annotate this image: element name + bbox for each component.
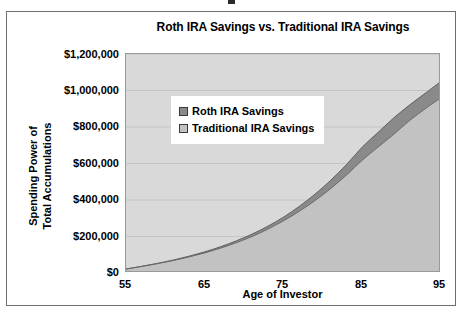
y-tick-label-200000: $200,000 [35, 230, 119, 242]
plot-area: Roth IRA Savings Traditional IRA Savings [125, 53, 440, 272]
scan-artifact-speck [228, 0, 235, 4]
y-tick-label-1000000: $1,000,000 [35, 84, 119, 96]
x-axis-title: Age of Investor [125, 288, 440, 300]
legend-item-traditional-ira-savings: Traditional IRA Savings [179, 120, 314, 137]
chart-title: Roth IRA Savings vs. Traditional IRA Sav… [125, 20, 441, 34]
chart-figure: Roth IRA Savings vs. Traditional IRA Sav… [0, 0, 463, 321]
legend-item-roth-ira-savings: Roth IRA Savings [179, 103, 314, 120]
y-tick-label-400000: $400,000 [35, 193, 119, 205]
y-tick-label-1200000: $1,200,000 [35, 48, 119, 60]
legend-label-roth: Roth IRA Savings [192, 103, 284, 120]
y-tick-label-600000: $600,000 [35, 157, 119, 169]
y-tick-label-800000: $800,000 [35, 120, 119, 132]
y-axis-tick-labels: $1,200,000 $1,000,000 $800,000 $600,000 … [31, 0, 119, 321]
legend-swatch-roth-icon [179, 107, 188, 116]
chart-legend: Roth IRA Savings Traditional IRA Savings [171, 96, 324, 144]
legend-label-traditional: Traditional IRA Savings [192, 120, 314, 137]
plot-svg [126, 54, 440, 272]
y-tick-label-0: $0 [35, 266, 119, 278]
legend-swatch-traditional-icon [179, 124, 188, 133]
